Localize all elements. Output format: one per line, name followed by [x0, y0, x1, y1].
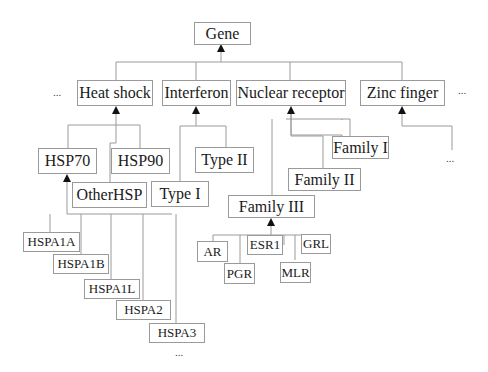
node-label: PGR — [227, 266, 252, 282]
node-mlr: MLR — [280, 262, 311, 283]
node-label: HSP90 — [118, 152, 163, 170]
gene-hierarchy-diagram: Gene ... Heat shock Interferon Nuclear r… — [0, 0, 488, 372]
ellipsis-hsp70: ... — [175, 346, 183, 358]
node-heat-shock: Heat shock — [77, 80, 153, 106]
node-label: HSPA3 — [158, 325, 197, 341]
node-hspa1a: HSPA1A — [23, 232, 80, 252]
node-hspa1l: HSPA1L — [84, 279, 140, 299]
node-hspa1b: HSPA1B — [53, 254, 109, 274]
node-label: MLR — [281, 265, 309, 281]
node-type-ii: Type II — [195, 147, 254, 173]
node-label: HSPA1B — [57, 256, 104, 272]
node-label: Type I — [159, 185, 200, 203]
node-hspa2: HSPA2 — [116, 300, 171, 320]
node-nuclear-receptor: Nuclear receptor — [236, 80, 346, 106]
node-label: ESR1 — [250, 237, 280, 253]
node-family-ii: Family II — [288, 168, 361, 191]
node-label: HSPA2 — [124, 302, 163, 318]
node-label: OtherHSP — [77, 186, 143, 204]
node-other-hsp: OtherHSP — [72, 182, 147, 208]
node-label: HSPA1A — [28, 234, 76, 250]
ellipsis-right: ... — [458, 84, 466, 96]
node-esr1: ESR1 — [247, 235, 283, 255]
node-label: Heat shock — [79, 84, 151, 102]
node-family-i: Family I — [332, 136, 389, 159]
node-label: Gene — [206, 25, 240, 43]
node-gene: Gene — [194, 22, 251, 45]
node-label: HSP70 — [45, 152, 90, 170]
node-pgr: PGR — [224, 263, 255, 284]
ellipsis-zinc-finger: ... — [446, 152, 454, 164]
node-label: Family II — [295, 171, 355, 189]
node-hsp90: HSP90 — [111, 148, 170, 174]
node-grl: GRL — [301, 234, 331, 254]
node-label: Family III — [239, 198, 304, 216]
node-label: Nuclear receptor — [237, 84, 344, 102]
node-label: Zinc finger — [367, 84, 439, 102]
node-label: AR — [203, 244, 221, 260]
node-label: Family I — [333, 139, 388, 157]
ellipsis-left: ... — [53, 86, 61, 98]
node-hspa3: HSPA3 — [149, 323, 205, 343]
node-zinc-finger: Zinc finger — [360, 80, 445, 106]
node-label: GRL — [303, 236, 329, 252]
node-label: HSPA1L — [89, 281, 135, 297]
node-interferon: Interferon — [162, 80, 231, 106]
node-label: Interferon — [165, 84, 229, 102]
node-family-iii: Family III — [228, 195, 315, 218]
node-hsp70: HSP70 — [38, 148, 97, 174]
node-ar: AR — [197, 241, 228, 262]
node-type-i: Type I — [151, 181, 209, 207]
node-label: Type II — [201, 151, 247, 169]
